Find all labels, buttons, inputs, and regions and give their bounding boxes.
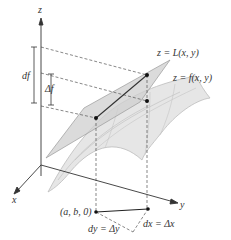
point-displaced (146, 207, 150, 211)
y-axis-arrow-icon (170, 199, 178, 204)
tangent-plane-label: z = L(x, y) (157, 48, 199, 58)
delta-f-label: Δf (45, 84, 54, 94)
x-axis-arrow-icon (14, 187, 20, 194)
linear-approximation-diagram: z x y df Δf z = L(x, y) z = f(x, y) (a, … (0, 0, 231, 240)
y-axis (41, 165, 174, 202)
dx-label: dx = Δx (143, 219, 175, 229)
point-a-b-0 (94, 210, 98, 214)
df-label: df (22, 71, 30, 81)
base-point-label: (a, b, 0) (60, 207, 92, 217)
df-bracket (31, 47, 37, 103)
x-axis (17, 165, 41, 191)
point-on-plane-base (94, 116, 98, 120)
surface-label: z = f(x, y) (173, 73, 212, 83)
point-on-plane (145, 73, 149, 77)
z-axis-label: z (38, 5, 42, 15)
diagram-canvas (0, 0, 231, 240)
x-axis-label: x (12, 195, 16, 205)
dy-label: dy = Δy (88, 224, 120, 234)
point-on-surface (145, 99, 149, 103)
z-axis-arrow-icon (39, 18, 43, 25)
y-axis-label: y (180, 200, 184, 210)
base-displacement (96, 209, 148, 212)
